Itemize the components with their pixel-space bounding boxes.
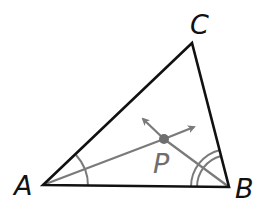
label-c: C (190, 9, 209, 40)
label-p: P (153, 148, 170, 179)
label-b: B (235, 173, 254, 204)
label-a: A (12, 170, 32, 201)
triangle-diagram: A B C P (0, 0, 263, 219)
bisector-a (43, 139, 164, 185)
point-p (159, 134, 169, 144)
